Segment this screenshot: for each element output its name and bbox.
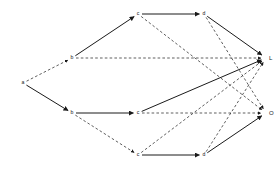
graph-node-d1: d [203,11,206,16]
graph-edge [206,62,263,151]
graph-node-b1: b [71,55,74,60]
graph-svg [0,0,278,170]
graph-node-c2: c [137,110,140,115]
graph-node-d2: d [203,152,206,157]
graph-node-b2: b [71,110,74,115]
diagram-canvas: abbcccddLO [0,0,278,170]
graph-node-L: L [269,55,272,61]
graph-node-a: a [22,80,25,85]
graph-edge [141,61,262,153]
edges-layer [26,14,263,155]
graph-edge [142,60,262,111]
graph-edge [27,60,68,81]
graph-edge [207,16,262,55]
graph-edge [75,17,134,56]
graph-edge [75,115,134,152]
graph-edge [26,85,68,111]
graph-node-c1: c [137,11,140,16]
graph-edge [141,16,262,109]
graph-edge [207,116,261,153]
graph-node-O: O [269,110,274,116]
graph-node-c3: c [137,152,140,157]
